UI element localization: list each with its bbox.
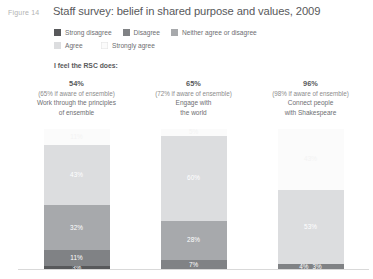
column-desc-2-line2: with Shakespeare — [252, 109, 369, 118]
column-percent-2: 96% — [252, 78, 369, 89]
bar-2-segment-0[interactable]: 43% — [278, 129, 344, 190]
legend-item-neither: Neither agree or disagree — [171, 29, 257, 36]
legend-row-1: Strong disagree Disagree Neither agree o… — [54, 26, 354, 39]
column-header-2: 96% (98% if aware of ensemble) Connect p… — [252, 78, 369, 117]
bar-0-segment-0[interactable]: 11% — [44, 129, 110, 145]
chart-legend: Strong disagree Disagree Neither agree o… — [54, 26, 354, 52]
column-header-0: 54% (65% if aware of ensemble) Work thro… — [18, 78, 135, 117]
figure-container: Figure 14 Staff survey: belief in shared… — [0, 0, 373, 279]
column-percent-0: 54% — [18, 78, 135, 89]
legend-swatch-disagree — [123, 29, 130, 36]
bar-2[interactable]: 43%53%4%3% — [278, 129, 344, 270]
bar-1-segment-2[interactable]: 28% — [161, 221, 227, 260]
column-percent-1: 65% — [135, 78, 252, 89]
figure-number: Figure 14 — [8, 9, 39, 16]
bar-slot-1: 5%60%28%7% — [135, 129, 252, 270]
legend-swatch-neither — [171, 29, 178, 36]
plot-area: 11%43%32%11%3%5%60%28%7%43%53%4%3% — [18, 129, 369, 279]
legend-label-disagree: Disagree — [134, 29, 160, 36]
bar-1-segment-1[interactable]: 60% — [161, 136, 227, 221]
legend-label-neither: Neither agree or disagree — [182, 29, 257, 36]
bar-slot-0: 11%43%32%11%3% — [18, 129, 135, 270]
legend-item-agree: Agree — [54, 42, 101, 49]
column-subnote-1: (72% if aware of ensemble) — [135, 89, 252, 98]
legend-label-strong-disagree: Strong disagree — [65, 29, 112, 36]
legend-label-agree: Agree — [65, 42, 83, 49]
column-subnote-0: (65% if aware of ensemble) — [18, 89, 135, 98]
bar-1-segment-0[interactable]: 5% — [161, 129, 227, 136]
column-desc-0-line1: Work through the principles — [18, 99, 135, 108]
column-desc-1-line2: the world — [135, 109, 252, 118]
bar-0-segment-1[interactable]: 43% — [44, 145, 110, 206]
figure-title: Staff survey: belief in shared purpose a… — [53, 5, 369, 17]
stacked-bars: 11%43%32%11%3%5%60%28%7%43%53%4%3% — [18, 129, 369, 270]
axis-baseline — [18, 269, 369, 270]
intro-text: I feel the RSC does: — [54, 62, 118, 69]
column-desc-1-line1: Engage with — [135, 99, 252, 108]
legend-item-disagree: Disagree — [123, 29, 160, 36]
bar-slot-2: 43%53%4%3% — [252, 129, 369, 270]
bar-0[interactable]: 11%43%32%11%3% — [44, 129, 110, 270]
column-subnote-2: (98% if aware of ensemble) — [252, 89, 369, 98]
bar-0-segment-2[interactable]: 32% — [44, 205, 110, 250]
column-desc-0-line2: of ensemble — [18, 109, 135, 118]
legend-item-strong-disagree: Strong disagree — [54, 29, 112, 36]
column-header-1: 65% (72% if aware of ensemble) Engage wi… — [135, 78, 252, 117]
bar-0-segment-3[interactable]: 11% — [44, 250, 110, 266]
legend-label-strongly-agree: Strongly agree — [112, 42, 155, 49]
legend-swatch-strongly-agree — [101, 42, 108, 49]
column-desc-2-line1: Connect people — [252, 99, 369, 108]
legend-row-2: Agree Strongly agree — [54, 39, 354, 52]
column-headers: 54% (65% if aware of ensemble) Work thro… — [18, 78, 369, 117]
bar-1[interactable]: 5%60%28%7% — [161, 129, 227, 270]
legend-swatch-strong-disagree — [54, 29, 61, 36]
legend-item-strongly-agree: Strongly agree — [101, 42, 155, 49]
bar-2-segment-1[interactable]: 53% — [278, 190, 344, 265]
legend-swatch-agree — [54, 42, 61, 49]
